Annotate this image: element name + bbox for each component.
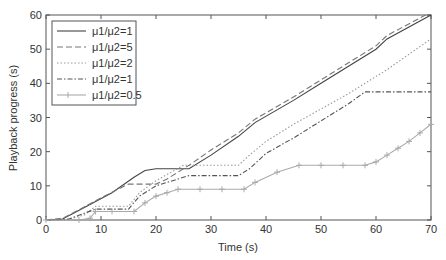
y-tick-label: 60	[30, 9, 42, 21]
data-point	[296, 162, 302, 168]
data-point	[362, 162, 368, 168]
legend-label: μ1/μ2=0.5	[92, 89, 142, 101]
legend-label: μ1/μ2=2	[92, 57, 133, 69]
data-point	[395, 145, 401, 151]
x-tick-label: 50	[315, 223, 327, 235]
data-point	[274, 169, 280, 175]
legend: μ1/μ2=1μ1/μ2=5μ1/μ2=2μ1/μ2=1μ1/μ2=0.5	[52, 21, 142, 105]
x-tick-label: 10	[95, 223, 107, 235]
series-4	[46, 92, 431, 220]
y-tick-label: 0	[36, 214, 42, 226]
data-point	[76, 217, 82, 223]
data-point	[175, 186, 181, 192]
legend-label: μ1/μ2=1	[92, 25, 133, 37]
data-point	[384, 152, 390, 158]
data-point	[241, 186, 247, 192]
y-tick-label: 20	[30, 146, 42, 158]
y-tick-label: 10	[30, 180, 42, 192]
y-tick-label: 40	[30, 77, 42, 89]
series-line	[46, 92, 431, 220]
data-point	[164, 190, 170, 196]
data-point	[153, 193, 159, 199]
chart: 0102030405060700102030405060 μ1/μ2=1μ1/μ…	[0, 0, 446, 260]
data-point	[318, 162, 324, 168]
x-tick-label: 70	[425, 223, 437, 235]
data-point	[340, 162, 346, 168]
x-axis-label: Time (s)	[218, 241, 258, 253]
x-tick-label: 30	[205, 223, 217, 235]
data-point	[252, 179, 258, 185]
data-point	[197, 186, 203, 192]
x-tick-label: 60	[370, 223, 382, 235]
legend-label: μ1/μ2=1	[92, 73, 133, 85]
x-tick-label: 40	[260, 223, 272, 235]
x-tick-label: 0	[43, 223, 49, 235]
data-point	[373, 159, 379, 165]
y-tick-label: 50	[30, 43, 42, 55]
x-tick-label: 20	[150, 223, 162, 235]
y-axis-label: Playback progress (s)	[7, 65, 19, 171]
y-tick-label: 30	[30, 112, 42, 124]
data-point	[219, 186, 225, 192]
series-line	[46, 124, 431, 220]
legend-label: μ1/μ2=5	[92, 41, 133, 53]
